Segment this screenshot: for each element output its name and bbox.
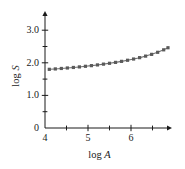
figure-container: 3.0 2.0 1.0 0 4 5 6 log S log A [0, 0, 185, 169]
y-axis-title-prefix: log [10, 73, 21, 86]
axes-group [42, 11, 172, 131]
axis-ticks-group [42, 30, 153, 131]
x-tick-label-4: 4 [35, 133, 55, 143]
y-axis-title-text: log S [10, 65, 21, 86]
x-axis-title-variable: A [104, 149, 110, 160]
y-axis-title-variable: S [10, 65, 21, 70]
y-axis-title: log S [7, 50, 23, 102]
x-tick-label-6: 6 [121, 133, 141, 143]
y-tick-label-3: 3.0 [0, 25, 39, 35]
x-tick-label-5: 5 [78, 133, 98, 143]
x-axis-title: log A [0, 149, 185, 160]
y-tick-label-0: 0 [0, 123, 39, 133]
data-series-group [48, 46, 170, 71]
x-axis-title-prefix: log [88, 149, 101, 160]
